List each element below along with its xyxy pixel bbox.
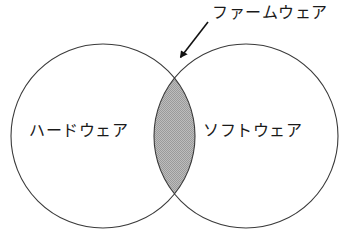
hardware-set-label: ハードウェア	[29, 121, 128, 140]
firmware-callout-arrow	[181, 22, 209, 58]
firmware-callout-label: ファームウェア	[212, 3, 328, 22]
venn-diagram: ハードウェア ソフトウェア ファームウェア	[0, 0, 349, 249]
software-set-label: ソフトウェア	[203, 121, 302, 140]
